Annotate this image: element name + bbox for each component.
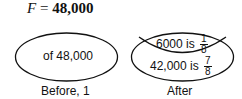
after-top-section: 6000 is 1 8 — [156, 34, 208, 55]
after-bottom-text: 42,000 is — [150, 59, 199, 73]
fraction-one-eighth: 1 8 — [200, 34, 208, 55]
after-top-text: 6000 is — [156, 37, 195, 51]
after-bottom-section: 42,000 is 7 8 — [150, 56, 212, 77]
fraction-denominator: 8 — [201, 45, 207, 55]
fraction-denominator: 8 — [205, 67, 211, 77]
fraction-seven-eighths: 7 8 — [204, 56, 212, 77]
before-caption: Before, 1 — [41, 84, 90, 98]
after-caption: After — [167, 84, 192, 98]
before-content: of 48,000 — [43, 49, 93, 63]
